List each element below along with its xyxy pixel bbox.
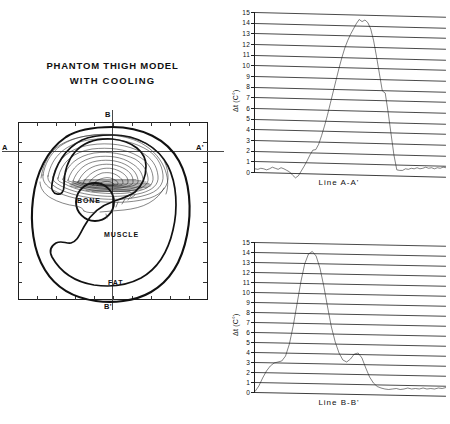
chart-line-b-b-prime: Δt (C°) 0123456789101112131415 Line B-B' <box>228 214 450 420</box>
y-tick-label: 11 <box>235 279 250 286</box>
y-tick-label: 13 <box>235 30 250 37</box>
section-label-b: B <box>105 110 111 119</box>
y-tick-label: 6 <box>235 329 250 336</box>
section-label-a-prime: A' <box>196 143 204 152</box>
gridline <box>255 172 446 178</box>
y-tick-label: 0 <box>235 169 250 176</box>
y-tick-label: 6 <box>235 105 250 112</box>
tissue-label-fat: FAT <box>108 279 123 286</box>
y-tick-label: 3 <box>235 137 250 144</box>
tissue-label-muscle: MUSCLE <box>104 231 139 238</box>
y-axis-tick <box>251 172 255 173</box>
y-tick-label: 8 <box>235 83 250 90</box>
chart-bb-curve <box>255 242 446 392</box>
y-tick-label: 10 <box>235 62 250 69</box>
y-tick-label: 9 <box>235 299 250 306</box>
chart-bb-caption: Line B-B' <box>228 398 450 407</box>
phantom-plot-area <box>18 122 208 300</box>
y-tick-label: 2 <box>235 369 250 376</box>
y-tick-label: 7 <box>235 94 250 101</box>
y-tick-label: 4 <box>235 126 250 133</box>
phantom-title-line2: WITH COOLING <box>0 73 225 88</box>
chart-line-a-a-prime: Δt (C°) 0123456789101112131415 Line A-A' <box>228 4 450 200</box>
y-tick-label: 12 <box>235 269 250 276</box>
y-tick-label: 5 <box>235 115 250 122</box>
y-tick-label: 3 <box>235 359 250 366</box>
tissue-label-bone: BONE <box>77 197 101 204</box>
y-tick-label: 11 <box>235 51 250 58</box>
y-tick-label: 0 <box>235 389 250 396</box>
chart-aa-caption: Line A-A' <box>228 178 450 187</box>
y-tick-label: 5 <box>235 339 250 346</box>
y-tick-label: 1 <box>235 158 250 165</box>
y-tick-label: 9 <box>235 73 250 80</box>
section-line-a-a-prime <box>2 151 224 152</box>
y-tick-label: 14 <box>235 249 250 256</box>
phantom-title-line1: PHANTOM THIGH MODEL <box>0 58 225 73</box>
y-tick-label: 2 <box>235 147 250 154</box>
chart-aa-curve <box>255 12 446 172</box>
figure-root: PHANTOM THIGH MODEL WITH COOLING <box>0 0 450 424</box>
y-tick-label: 13 <box>235 259 250 266</box>
y-tick-label: 7 <box>235 319 250 326</box>
y-tick-label: 15 <box>235 239 250 246</box>
y-tick-label: 4 <box>235 349 250 356</box>
section-label-b-prime: B' <box>104 302 112 311</box>
y-tick-label: 14 <box>235 19 250 26</box>
y-tick-label: 15 <box>235 9 250 16</box>
gridline <box>255 392 446 397</box>
y-tick-label: 1 <box>235 379 250 386</box>
phantom-frame <box>18 122 208 300</box>
chart-bb-plot-area: 0123456789101112131415 <box>254 242 446 392</box>
y-tick-label: 8 <box>235 309 250 316</box>
chart-aa-plot-area: 0123456789101112131415 <box>254 12 446 172</box>
y-tick-label: 10 <box>235 289 250 296</box>
y-tick-label: 12 <box>235 41 250 48</box>
phantom-title: PHANTOM THIGH MODEL WITH COOLING <box>0 58 225 88</box>
section-label-a: A <box>2 143 8 152</box>
phantom-thigh-panel: PHANTOM THIGH MODEL WITH COOLING <box>0 0 225 424</box>
y-axis-tick <box>251 392 255 393</box>
